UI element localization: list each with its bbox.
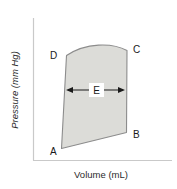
segment-label-e: E	[93, 85, 100, 96]
corner-label-c: C	[133, 44, 140, 55]
diagram-canvas: D C B A E Volume (mL) Pressure (mm Hg)	[0, 0, 177, 189]
x-axis-label: Volume (mL)	[74, 169, 128, 180]
pressure-volume-diagram: D C B A E Volume (mL) Pressure (mm Hg)	[0, 0, 177, 189]
y-axis-label: Pressure (mm Hg)	[9, 51, 20, 129]
corner-label-b: B	[133, 129, 140, 140]
corner-label-a: A	[50, 146, 57, 157]
corner-label-d: D	[50, 50, 57, 61]
